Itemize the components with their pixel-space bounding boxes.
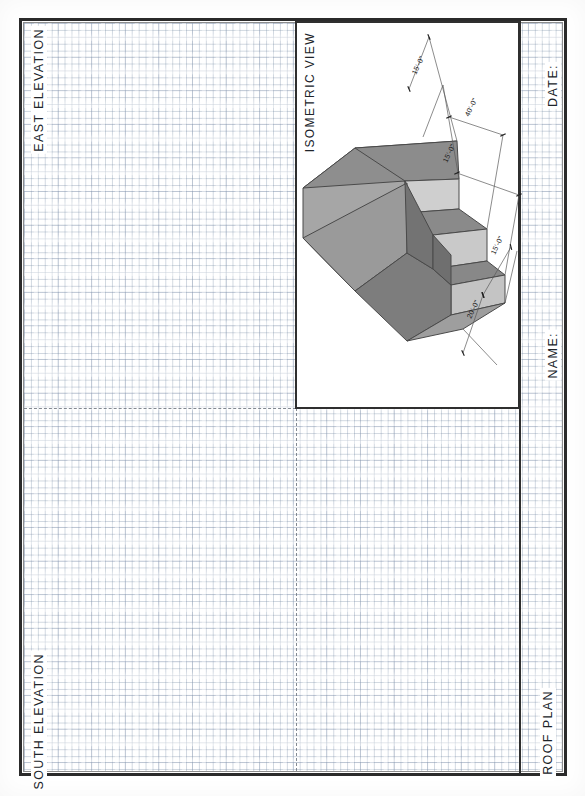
panel-label-south-elevation: SOUTH ELEVATION [31,651,47,792]
dimension-label-1: 15'-0" [410,54,427,76]
dimension-label-2: 40'-0" [463,96,480,118]
panel-label-isometric-view: ISOMETRIC VIEW [302,30,318,154]
drawing-sheet: 15'-0" 40'-0" 15'-0" 15'-0" 20'-0" EAST … [0,0,585,796]
titleblock-name-label: NAME: [545,330,561,381]
isometric-drawing: 15'-0" 40'-0" 15'-0" 15'-0" 20'-0" [297,23,522,411]
panel-label-east-elevation: EAST ELEVATION [31,26,47,154]
panel-isometric-view: 15'-0" 40'-0" 15'-0" 15'-0" 20'-0" [295,21,520,409]
titleblock-date-label: DATE: [545,62,561,109]
dimension-label-4: 15'-0" [489,234,506,256]
titleblock [520,21,564,773]
panel-label-roof-plan: ROOF PLAN [540,688,556,777]
